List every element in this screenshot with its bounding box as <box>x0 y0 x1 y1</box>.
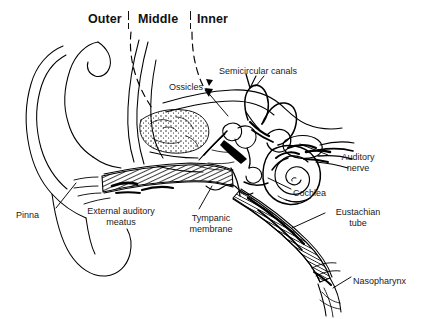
divider-tick-middle-inner-lower <box>190 23 191 29</box>
label-ossicles: Ossicles <box>169 82 203 93</box>
pinna-outline <box>26 42 131 276</box>
section-label-middle: Middle <box>138 12 178 26</box>
label-tympanic-membrane: Tympanicmembrane <box>182 213 240 235</box>
eustachian-tube <box>233 189 340 282</box>
leader-tympanic-membrane <box>199 186 212 209</box>
leader-nasopharynx <box>333 277 351 288</box>
label-nasopharynx: Nasopharynx <box>353 276 406 287</box>
divider-tick-middle-inner-upper <box>190 11 191 20</box>
leader-semicircular-canals <box>256 76 264 86</box>
ear-anatomy-figure: Outer Middle Inner Ossicles Semicircular… <box>0 0 424 319</box>
label-pinna: Pinna <box>16 210 39 221</box>
ossicles-arrow <box>206 79 213 86</box>
divider-tick-outer-middle-lower <box>128 23 129 29</box>
leader-pinna <box>56 183 76 208</box>
section-divider-lines <box>130 32 209 108</box>
semicircular-canals <box>245 74 297 152</box>
label-semicircular-canals: Semicircular canals <box>219 66 297 77</box>
vestibule-plate <box>283 136 322 159</box>
leader-eustachian-tube <box>292 213 325 228</box>
section-label-inner: Inner <box>197 12 228 26</box>
label-eustachian-tube: Eustachiantube <box>327 207 389 229</box>
label-auditory-nerve: Auditorynerve <box>330 152 386 174</box>
label-external-auditory-meatus: External auditorymeatus <box>79 206 163 228</box>
mastoid-air-cells <box>140 109 209 153</box>
divider-tick-outer-middle-upper <box>128 11 129 20</box>
label-cochlea: Cochlea <box>293 188 326 199</box>
section-label-outer: Outer <box>88 12 122 26</box>
